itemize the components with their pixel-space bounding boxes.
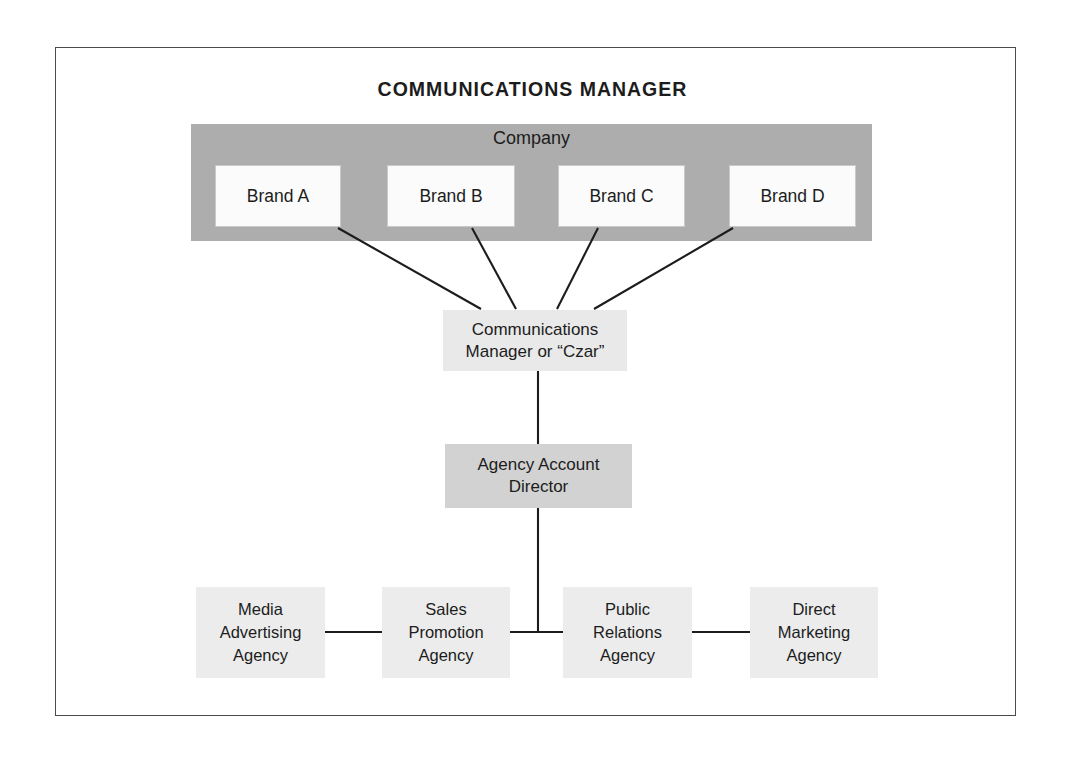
agency-line-3: Agency (418, 644, 473, 667)
brand-box-a: Brand A (215, 165, 341, 227)
communications-manager-box: Communications Manager or “Czar” (443, 310, 627, 371)
czar-line-2: Manager or “Czar” (466, 341, 605, 363)
agency-line-3: Agency (600, 644, 655, 667)
agency-line-1: Direct (792, 598, 835, 621)
agency-box-media-advertising: Media Advertising Agency (196, 587, 325, 678)
page-title: COMMUNICATIONS MANAGER (0, 78, 1065, 101)
brand-label: Brand C (589, 186, 653, 207)
agency-line-3: Agency (233, 644, 288, 667)
diagram-page: COMMUNICATIONS MANAGER Company Brand A B… (0, 0, 1065, 769)
agency-line-2: Relations (593, 621, 662, 644)
agency-box-direct-marketing: Direct Marketing Agency (750, 587, 878, 678)
agency-box-sales-promotion: Sales Promotion Agency (382, 587, 510, 678)
company-label: Company (191, 128, 872, 149)
brand-box-d: Brand D (729, 165, 856, 227)
brand-box-c: Brand C (558, 165, 685, 227)
brand-label: Brand B (419, 186, 482, 207)
agency-line-1: Media (238, 598, 283, 621)
director-line-2: Director (509, 476, 569, 498)
agency-account-director-box: Agency Account Director (445, 444, 632, 508)
agency-line-2: Marketing (778, 621, 850, 644)
agency-line-1: Public (605, 598, 650, 621)
agency-line-2: Advertising (220, 621, 302, 644)
brand-label: Brand D (760, 186, 824, 207)
agency-line-1: Sales (425, 598, 466, 621)
agency-line-2: Promotion (408, 621, 483, 644)
agency-line-3: Agency (786, 644, 841, 667)
brand-box-b: Brand B (387, 165, 515, 227)
brand-label: Brand A (247, 186, 309, 207)
director-line-1: Agency Account (478, 454, 600, 476)
agency-box-public-relations: Public Relations Agency (563, 587, 692, 678)
czar-line-1: Communications (472, 319, 599, 341)
